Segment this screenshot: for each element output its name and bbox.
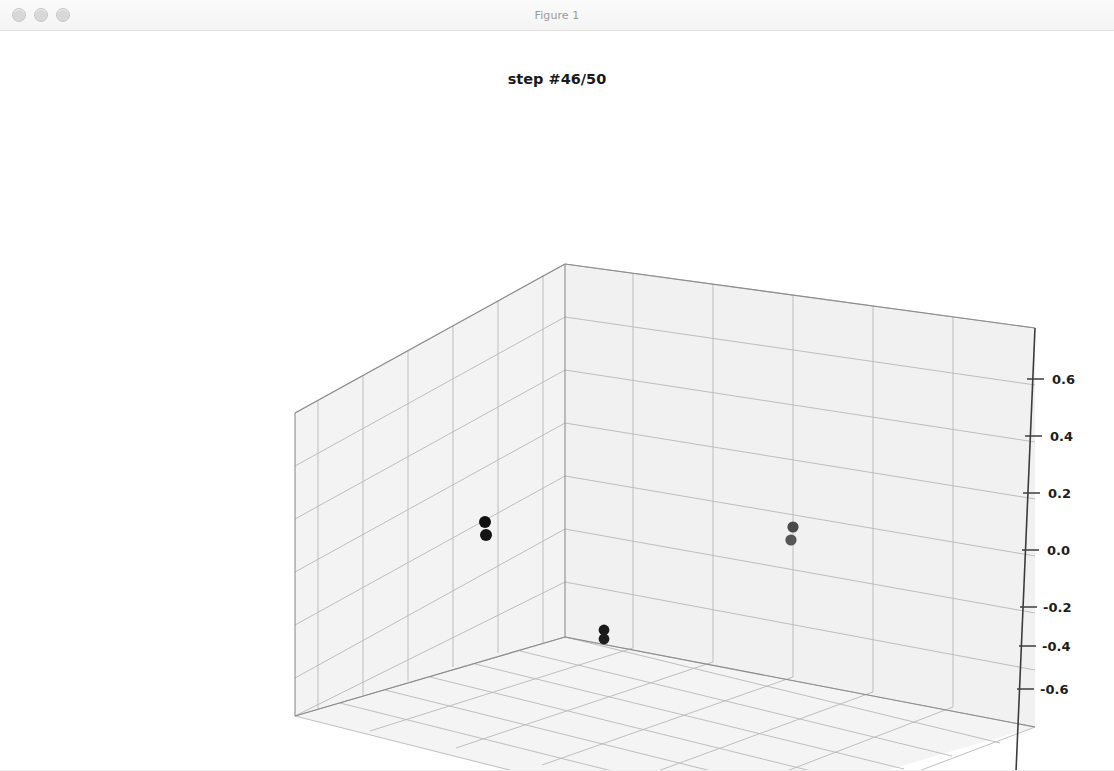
z-tick-label-1: 0.4 — [1050, 429, 1073, 444]
scatter-point[interactable] — [599, 634, 610, 645]
z-tick-label-5: -0.4 — [1042, 639, 1070, 654]
scatter-point[interactable] — [787, 521, 798, 532]
scatter-point[interactable] — [480, 529, 492, 541]
close-button[interactable] — [12, 8, 26, 22]
figure-window: Figure 1 step #46/50 — [0, 0, 1114, 771]
pane-back-left — [295, 264, 565, 716]
zoom-button[interactable] — [56, 8, 70, 22]
scatter-point[interactable] — [785, 534, 796, 545]
window-title: Figure 1 — [0, 9, 1114, 22]
z-tick-label-3: 0.0 — [1047, 543, 1070, 558]
figure-canvas[interactable]: step #46/50 — [0, 31, 1114, 771]
z-tick-label-0: 0.6 — [1052, 372, 1075, 387]
window-titlebar[interactable]: Figure 1 — [0, 0, 1114, 31]
minimize-button[interactable] — [34, 8, 48, 22]
z-tick-label-2: 0.2 — [1048, 486, 1071, 501]
z-tick-label-4: -0.2 — [1043, 600, 1071, 615]
window-controls[interactable] — [12, 0, 70, 30]
z-tick-label-6: -0.6 — [1040, 682, 1068, 697]
z-tick-labels: 0.6 0.4 0.2 0.0 -0.2 -0.4 -0.6 — [1040, 372, 1075, 697]
axes3d-scatter-plot[interactable]: 0.6 0.4 0.2 0.0 -0.2 -0.4 -0.6 — [0, 31, 1114, 771]
scatter-point[interactable] — [479, 516, 491, 528]
